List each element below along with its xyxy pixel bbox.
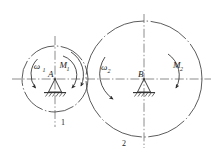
diagram-canvas: ω 1 M 1 ω 2 M 2 A B 1 2: [0, 0, 217, 154]
mechanics-diagram: ω 1 M 1 ω 2 M 2 A B 1 2: [0, 0, 217, 154]
point-b-label: B: [138, 69, 144, 79]
body-2-number-label: 2: [122, 139, 126, 148]
support-a-pin-dot: [54, 78, 56, 80]
omega-2-label: ω: [101, 62, 107, 72]
omega-1-label: ω: [34, 61, 40, 71]
support-b-hatching: [135, 93, 155, 97]
omega-1-subscript: 1: [43, 67, 46, 73]
moment-1-arc-arrow-outer: [71, 52, 83, 86]
point-a-label: A: [47, 69, 54, 79]
omega-2-subscript: 2: [108, 68, 111, 74]
support-a-hatching: [46, 93, 66, 97]
body-1-number-label: 1: [61, 118, 65, 127]
moment-2-subscript: 2: [180, 66, 183, 72]
moment-1-subscript: 1: [67, 66, 70, 72]
